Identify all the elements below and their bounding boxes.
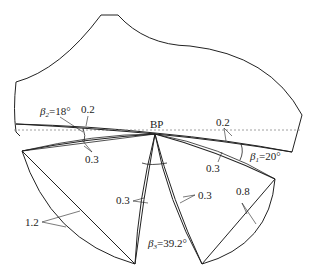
top-right-thickness-label: 0.2: [216, 116, 230, 128]
body-outline: [15, 15, 303, 152]
right-thickness-label: 0.3: [206, 162, 220, 174]
leader-right-0.8b: [242, 203, 256, 224]
left-thickness-label: 0.3: [85, 153, 99, 165]
beta1-label: β1=20°: [249, 150, 281, 164]
leader-left-0.3a: [82, 140, 92, 152]
beta3-label: β3=39.2°: [147, 237, 187, 251]
leader-right-0.3: [218, 152, 222, 162]
center-left-thickness-label: 0.3: [116, 194, 130, 206]
left-blade-thickness-label: 1.2: [25, 216, 39, 228]
beta1-angle-arc: [240, 144, 242, 160]
right-blade-thickness-label: 0.8: [236, 185, 250, 197]
leader-top-left-0.2: [86, 116, 88, 126]
beta2-label: β2=18°: [39, 105, 71, 119]
blade-beta2-upper: [16, 124, 155, 134]
bp-label: BP: [150, 118, 163, 130]
leader-left-1.2b: [42, 222, 66, 227]
leader-center-left-0.3b: [133, 201, 148, 203]
left-blade-to-bp: [22, 134, 155, 151]
center-right-thickness-label: 0.3: [198, 189, 212, 201]
top-left-thickness-label: 0.2: [81, 103, 95, 115]
leader-center-left-0.3a: [133, 198, 144, 201]
blade-diagram: BP β2=18° 0.2 0.3 0.2 0.3 β1=20° 0.3 0.3…: [0, 0, 310, 280]
left-blade-edge: [22, 151, 135, 264]
